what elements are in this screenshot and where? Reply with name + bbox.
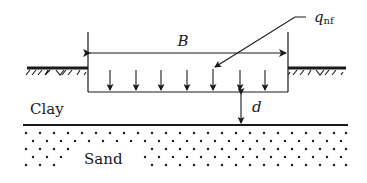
width-label: B [176, 32, 188, 50]
load-label: qnf [314, 8, 335, 26]
depth-label: d [252, 98, 262, 116]
ground-surface-left [26, 68, 88, 75]
ground-surface-right [288, 68, 346, 75]
sand-pattern [25, 132, 347, 166]
sand-label: Sand [84, 150, 123, 168]
load-arrows [110, 69, 265, 90]
load-leader-line [215, 17, 306, 67]
clay-label: Clay [30, 100, 64, 118]
foundation-diagram: B qnf d Clay Sand [0, 0, 367, 183]
